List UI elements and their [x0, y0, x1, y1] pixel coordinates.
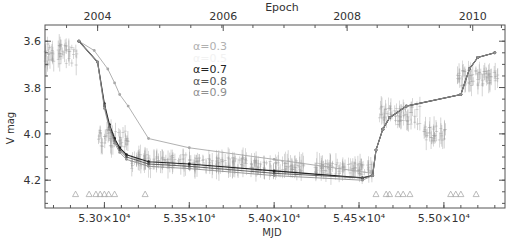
y-tick-label: 4.2: [24, 174, 42, 187]
triangle-marker: [407, 191, 413, 197]
top-tick-label: 2010: [459, 10, 487, 23]
triangle-marker: [373, 191, 379, 197]
model-point: [493, 51, 496, 54]
model-point: [118, 93, 121, 96]
top-axis-title: Epoch: [265, 1, 299, 14]
model-point: [147, 137, 150, 140]
model-point: [468, 68, 471, 71]
model-point: [476, 56, 479, 59]
model-point: [96, 61, 99, 64]
model-point: [127, 105, 130, 108]
top-tick-label: 2008: [333, 10, 361, 23]
upper-limit-markers: [73, 191, 480, 197]
triangle-marker: [106, 191, 112, 197]
model-point: [405, 105, 408, 108]
model-point: [106, 68, 109, 71]
triangle-marker: [458, 191, 464, 197]
model-point: [375, 149, 378, 152]
triangle-marker: [112, 191, 118, 197]
y-tick-label: 3.8: [24, 82, 42, 95]
model-point: [459, 93, 462, 96]
model-point: [361, 179, 364, 182]
legend-entry: α=0.9: [193, 86, 227, 99]
y-tick-label: 3.6: [24, 35, 42, 48]
triangle-marker: [400, 191, 406, 197]
top-tick-label: 2004: [84, 10, 112, 23]
model-point: [108, 128, 111, 131]
model-curve: [79, 41, 495, 178]
model-point: [273, 174, 276, 177]
model-point: [125, 158, 128, 161]
y-axis-title: V mag: [5, 112, 16, 144]
model-curve: [79, 41, 495, 173]
y-tick-label: 4.0: [24, 128, 42, 141]
triangle-marker: [473, 191, 479, 197]
plot-frame: [45, 25, 505, 208]
legend: α=0.3α=0.5α=0.7α=0.8α=0.9: [193, 40, 227, 99]
x-tick-label: 5.40×10⁴: [248, 212, 301, 225]
triangle-marker: [86, 191, 92, 197]
model-point: [371, 174, 374, 177]
model-point: [93, 49, 96, 52]
light-curve-chart: 5.30×10⁴5.35×10⁴5.40×10⁴5.45×10⁴5.50×10⁴…: [0, 0, 513, 242]
x-tick-label: 5.35×10⁴: [163, 212, 216, 225]
model-curve: [79, 41, 495, 178]
model-point: [113, 142, 116, 145]
model-point: [273, 158, 276, 161]
x-tick-label: 5.50×10⁴: [418, 212, 471, 225]
model-point: [188, 167, 191, 170]
axes: 5.30×10⁴5.35×10⁴5.40×10⁴5.45×10⁴5.50×10⁴…: [24, 10, 506, 225]
model-point: [78, 40, 81, 43]
model-point: [147, 165, 150, 168]
model-point: [113, 82, 116, 85]
x-tick-label: 5.30×10⁴: [78, 212, 131, 225]
top-tick-label: 2006: [209, 10, 237, 23]
observation-points: [44, 34, 499, 185]
model-point: [388, 116, 391, 119]
model-point: [188, 146, 191, 149]
x-axis-title: MJD: [262, 227, 282, 238]
x-tick-label: 5.45×10⁴: [333, 212, 386, 225]
model-point: [381, 128, 384, 131]
model-point: [118, 151, 121, 154]
model-point: [103, 107, 106, 110]
triangle-marker: [73, 191, 79, 197]
triangle-marker: [142, 191, 148, 197]
